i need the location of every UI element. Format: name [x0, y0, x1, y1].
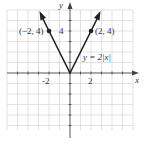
equation-label: y = 2|x|: [83, 52, 111, 62]
y-tick-label-4: 4: [59, 26, 64, 36]
y-axis-label: y: [59, 0, 63, 10]
x-tick-label-neg2: -2: [42, 76, 50, 86]
x-tick-label-2: 2: [88, 76, 93, 86]
x-axis-label: x: [135, 75, 139, 85]
point-label-2-4: (2, 4): [95, 26, 115, 36]
point-label-neg2-4: (−2, 4): [19, 26, 44, 36]
